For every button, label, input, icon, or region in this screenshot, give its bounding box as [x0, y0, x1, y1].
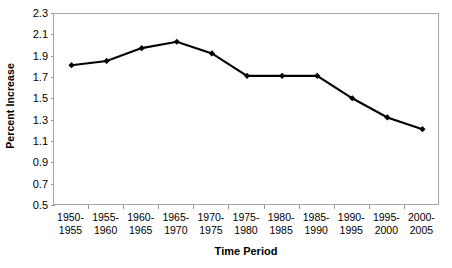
x-axis-tick-label-line1: 2000- — [399, 211, 443, 224]
y-axis-tick-label: 0.7 — [33, 178, 48, 190]
x-axis-tick-mark — [158, 205, 159, 209]
x-axis-tick-mark — [299, 205, 300, 209]
x-axis-tick-mark — [193, 205, 194, 209]
data-point-marker — [68, 62, 74, 68]
y-axis-title: Percent Increase — [0, 0, 20, 212]
y-axis-tick-label: 0.9 — [33, 156, 48, 168]
data-point-marker — [279, 73, 285, 79]
y-axis-tick-label: 1.7 — [33, 71, 48, 83]
x-axis-tick-mark — [123, 205, 124, 209]
line-chart: Percent Increase 2.32.11.91.71.51.31.10.… — [0, 0, 452, 268]
data-point-marker — [139, 45, 145, 51]
y-axis-tick-label: 0.5 — [33, 199, 48, 211]
x-axis-tick-label-line2: 2005 — [399, 224, 443, 237]
y-axis-tick-label: 1.1 — [33, 135, 48, 147]
x-axis-tick-mark — [88, 205, 89, 209]
plot-area — [53, 13, 439, 205]
data-point-marker — [419, 126, 425, 132]
y-axis-tick-label: 1.9 — [33, 50, 48, 62]
x-axis-title: Time Period — [53, 245, 439, 257]
x-axis-tick-mark — [369, 205, 370, 209]
x-axis-tick-mark — [334, 205, 335, 209]
y-axis-tick-label: 1.5 — [33, 92, 48, 104]
x-axis-tick-mark — [228, 205, 229, 209]
series-plot — [54, 14, 440, 206]
data-point-marker — [174, 39, 180, 45]
data-point-marker — [104, 58, 110, 64]
series-markers — [68, 39, 425, 133]
y-axis-tick-label: 1.3 — [33, 114, 48, 126]
x-axis-tick-label: 2000-2005 — [399, 211, 443, 237]
x-axis-tick-mark — [404, 205, 405, 209]
y-axis-tick-labels: 2.32.11.91.71.51.31.10.90.70.5 — [20, 7, 51, 207]
y-axis-title-text: Percent Increase — [4, 63, 16, 149]
x-axis-tick-labels: 1950-19551955-19601960-19651965-19701970… — [53, 211, 439, 243]
y-axis-tick-label: 2.1 — [33, 28, 48, 40]
x-axis-tick-mark — [264, 205, 265, 209]
x-axis-tick-marks — [53, 205, 439, 210]
series-line — [72, 42, 423, 129]
y-axis-tick-label: 2.3 — [33, 7, 48, 19]
